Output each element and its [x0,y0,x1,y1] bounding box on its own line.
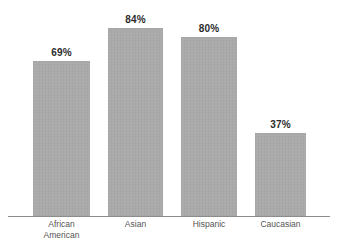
category-label-1: Asian [108,219,163,230]
category-label-2: Hispanic [181,219,237,230]
category-axis-labels: African American Asian Hispanic Caucasia… [0,219,347,251]
x-axis-line [8,216,330,217]
bar-group-2: 80% [181,23,237,216]
bar-group-3: 37% [255,119,306,216]
bar-value-label-0: 69% [51,47,72,58]
bar-value-label-1: 84% [125,14,146,25]
plot-area: 69% 84% 80% 37% [0,0,347,217]
bar-rect-0 [33,61,90,216]
bar-rect-1 [108,28,163,216]
bar-rect-2 [181,37,237,216]
bar-chart: 69% 84% 80% 37% African American Asian H… [0,0,347,251]
category-label-0: African American [33,219,90,241]
category-label-3: Caucasian [252,219,309,230]
bar-value-label-2: 80% [199,23,220,34]
bar-value-label-3: 37% [270,119,291,130]
bar-rect-3 [255,133,306,216]
bar-group-0: 69% [33,47,90,216]
bar-group-1: 84% [108,14,163,216]
